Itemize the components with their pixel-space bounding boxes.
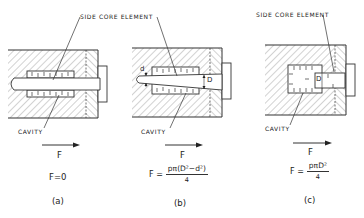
equation-b-lhs: F = — [149, 170, 163, 179]
side-core-element-label-c: SIDE CORE ELEMENT — [256, 11, 329, 18]
dimension-D-label-b: D — [207, 76, 212, 84]
cavity-label-c: CAVITY — [265, 125, 290, 132]
equation-b: F = pπ(D²−d²) 4 — [149, 164, 208, 184]
equation-c: F = pπD² 4 — [290, 161, 329, 181]
force-label-c: F — [308, 147, 313, 157]
equation-c-numerator: pπD² — [307, 161, 329, 172]
dimension-d-label: d — [140, 65, 144, 73]
cavity-label-b: CAVITY — [141, 128, 166, 135]
cavity-label-a: CAVITY — [18, 128, 43, 135]
dimension-D-label-c: D — [316, 75, 321, 83]
equation-c-lhs: F = — [290, 167, 304, 176]
force-label-a: F — [57, 150, 62, 160]
equation-a: F=0 — [49, 172, 66, 182]
equation-b-numerator: pπ(D²−d²) — [166, 164, 208, 175]
caption-a: (a) — [52, 196, 64, 206]
caption-c: (c) — [304, 195, 315, 205]
equation-c-denominator: 4 — [316, 172, 320, 181]
side-core-element-label-a: SIDE CORE ELEMENT — [80, 13, 153, 20]
equation-b-denominator: 4 — [185, 175, 189, 184]
mold-diagram — [0, 0, 364, 218]
force-label-b: F — [180, 150, 185, 160]
caption-b: (b) — [174, 198, 186, 208]
